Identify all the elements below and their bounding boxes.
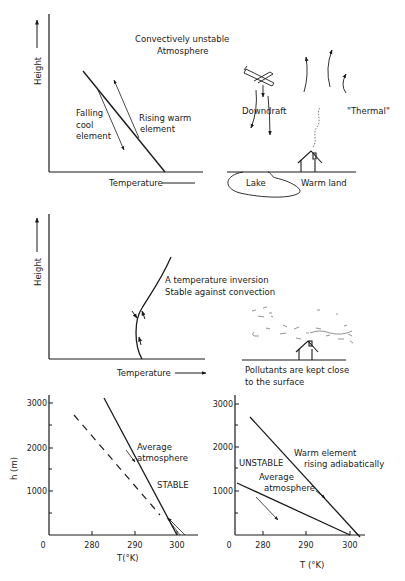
x-tick-280: 280 bbox=[255, 541, 270, 550]
inversion-label-2: Stable against convection bbox=[165, 287, 275, 297]
x-axis-label: T(°K) bbox=[116, 553, 139, 563]
x-tick-280: 280 bbox=[84, 541, 99, 550]
downdraft-label: Downdraft bbox=[242, 106, 287, 116]
atmospheric-stability-diagram: Height Temperature Falling cool element … bbox=[0, 0, 405, 581]
chimney-smoke bbox=[313, 107, 320, 147]
stability-arrow-3-icon bbox=[139, 337, 141, 345]
house-icon bbox=[296, 341, 318, 360]
x-axis-label: T (°K) bbox=[299, 560, 324, 570]
stability-arrow-2-icon bbox=[142, 311, 145, 319]
x-axis-label: Temperature bbox=[108, 178, 163, 188]
y-tick-3000: 3000 bbox=[27, 399, 47, 408]
warm-element-label-1: Warm element bbox=[294, 448, 357, 458]
sinking-arrow-icon bbox=[126, 450, 135, 462]
house-icon bbox=[298, 151, 322, 172]
falling-element-arrow-icon bbox=[98, 90, 124, 150]
y-tick-2000: 2000 bbox=[213, 443, 233, 452]
unstable-label: UNSTABLE bbox=[239, 458, 283, 468]
x-tick-290: 290 bbox=[298, 541, 313, 550]
x-tick-290: 290 bbox=[127, 541, 142, 550]
panel-unstable-profile: Height Temperature Falling cool element … bbox=[33, 14, 229, 188]
rising-label-1: Rising warm bbox=[139, 113, 191, 123]
panel-inversion-profile: Height Temperature A temperature inversi… bbox=[33, 214, 275, 378]
airplane-icon bbox=[244, 66, 274, 86]
y-axis-label: h (m) bbox=[9, 457, 19, 480]
thermal-arrow-2-icon bbox=[328, 50, 332, 87]
average-atmosphere-line bbox=[104, 398, 177, 535]
falling-label-2: cool bbox=[76, 120, 93, 130]
y-tick-2000: 2000 bbox=[27, 444, 47, 453]
x-tick-300: 300 bbox=[342, 541, 357, 550]
y-axis-label: Height bbox=[33, 56, 43, 85]
rising-label-2: element bbox=[140, 124, 176, 134]
falling-label-1: Falling bbox=[76, 108, 103, 118]
thermal-label: "Thermal" bbox=[347, 106, 390, 116]
pollutants-label-1: Pollutants are kept close bbox=[245, 365, 349, 375]
chart-stable: 3000 2000 1000 0 280 290 300 h (m) T(°K)… bbox=[9, 395, 198, 563]
average-label-1: Average bbox=[137, 442, 172, 452]
stability-arrow-1-icon bbox=[132, 311, 137, 318]
y-tick-1000: 1000 bbox=[27, 487, 47, 496]
adiabatic-dashed-line bbox=[74, 415, 160, 515]
rising-arrow-icon bbox=[316, 491, 325, 498]
thermal-arrow-1-icon bbox=[304, 57, 307, 92]
scene-inversion: Pollutants are kept close to the surface bbox=[242, 307, 353, 387]
x-tick-300: 300 bbox=[169, 541, 184, 550]
unstable-title-1: Convectively unstable bbox=[135, 34, 229, 44]
scene-convection: Downdraft "Thermal" Lake Warm land bbox=[227, 50, 390, 197]
chart-unstable: 3000 2000 1000 0 280 290 300 T (°K) UNST… bbox=[213, 395, 385, 570]
y-axis-label: Height bbox=[33, 257, 43, 286]
warm-land-label: Warm land bbox=[301, 178, 347, 188]
pollutants-label-2: to the surface bbox=[245, 377, 304, 387]
average-label-1: Average bbox=[259, 472, 294, 482]
element-line bbox=[167, 518, 180, 535]
lake-label: Lake bbox=[246, 178, 266, 188]
thermal-arrow-3-icon bbox=[343, 74, 346, 93]
y-tick-1000: 1000 bbox=[213, 487, 233, 496]
y-tick-3000: 3000 bbox=[213, 400, 233, 409]
x-tick-0: 0 bbox=[40, 541, 45, 550]
warm-element-label-2: rising adiabatically bbox=[304, 459, 384, 469]
rising-element-arrow-icon bbox=[114, 80, 139, 138]
falling-label-3: element bbox=[76, 131, 112, 141]
average-label-2: atmosphere bbox=[264, 483, 315, 493]
stable-label: STABLE bbox=[157, 480, 189, 490]
unstable-title-2: Atmosphere bbox=[157, 46, 208, 56]
x-tick-0: 0 bbox=[226, 541, 231, 550]
inversion-curve bbox=[136, 257, 171, 359]
pollution-haze bbox=[252, 307, 353, 343]
inversion-label-1: A temperature inversion bbox=[165, 275, 269, 285]
x-axis-label: Temperature bbox=[116, 368, 171, 378]
average-label-2: atmosphere bbox=[137, 453, 188, 463]
